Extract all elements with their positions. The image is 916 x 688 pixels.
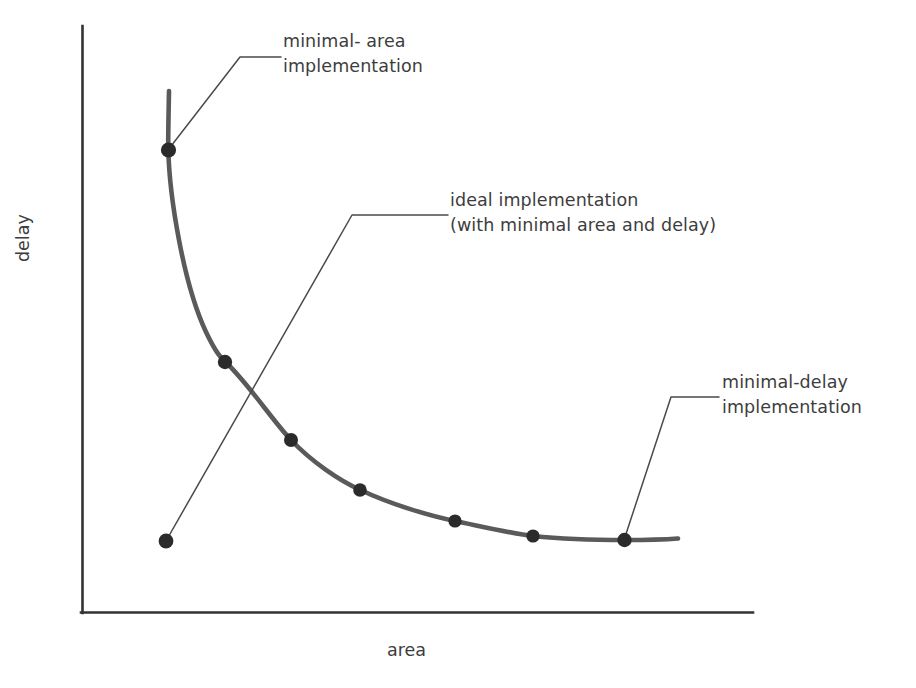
data-point-4 [353,483,367,497]
axes-group [81,26,753,613]
x-axis-label: area [387,640,426,660]
data-point-5 [448,514,461,527]
y-axis-label: delay [13,214,33,262]
annotation-minimal-area-line2: implementation [283,54,423,79]
annotation-minimal-delay: minimal-delay implementation [722,370,862,420]
leader-line-ideal [166,215,448,541]
data-point-ideal [159,534,174,549]
data-point-3 [284,433,298,447]
chart-graphic [0,0,916,688]
annotation-ideal-line1: ideal implementation [450,188,716,213]
annotation-minimal-area: minimal- area implementation [283,29,423,79]
data-point-6 [526,529,539,542]
annotation-minimal-delay-line1: minimal-delay [722,370,862,395]
annotation-minimal-area-line1: minimal- area [283,29,423,54]
annotation-ideal-implementation: ideal implementation (with minimal area … [450,188,716,238]
annotation-minimal-delay-line2: implementation [722,395,862,420]
figure-canvas: minimal- area implementation ideal imple… [0,0,916,688]
annotation-ideal-line2: (with minimal area and delay) [450,213,716,238]
data-point-minimal-area [161,142,176,157]
tradeoff-curve [168,91,678,540]
tradeoff-curve-group [168,91,678,540]
leader-line-minimal-area [168,57,281,150]
leader-line-minimal-delay [624,397,719,540]
leader-lines-group [166,57,719,541]
data-point-2 [218,355,232,369]
data-point-minimal-delay [617,533,631,547]
